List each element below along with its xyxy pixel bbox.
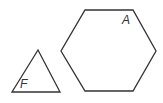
hexagon-a [61,10,156,91]
triangle-label: F [20,77,28,91]
hexagon-label: A [121,13,130,27]
shapes-diagram: F A [0,0,163,103]
